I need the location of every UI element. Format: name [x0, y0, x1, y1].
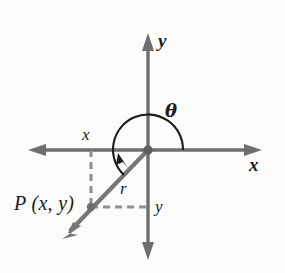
- point-p-marker: [87, 203, 95, 211]
- x-segment-label: x: [82, 126, 90, 143]
- y-axis-label: y: [158, 31, 166, 50]
- y-segment-label: y: [155, 198, 163, 215]
- y-axis-top-arrowhead: [142, 33, 154, 51]
- terminal-ray-group: [62, 145, 153, 239]
- y-axis-bottom-arrowhead: [142, 242, 154, 260]
- r-segment-label: r: [120, 180, 127, 197]
- figure-canvas: y x θ x r y P (x, y): [0, 0, 285, 273]
- polar-coordinate-diagram: [0, 0, 285, 273]
- theta-label: θ: [165, 102, 177, 120]
- origin-marker: [143, 145, 152, 154]
- x-axis-left-arrowhead: [28, 144, 46, 156]
- terminal-ray-line: [70, 150, 148, 231]
- point-p-label: P (x, y): [14, 193, 74, 213]
- x-axis-label: x: [249, 155, 259, 174]
- axes-group: [28, 33, 262, 260]
